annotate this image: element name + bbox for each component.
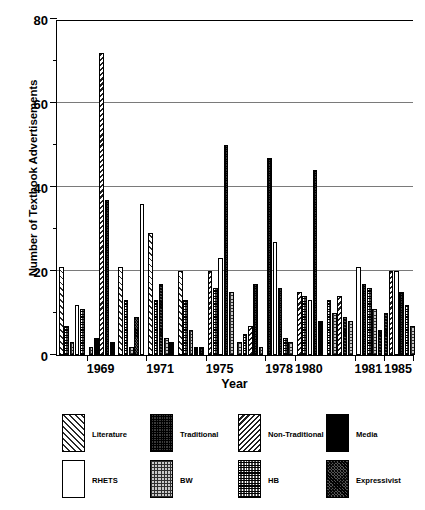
x-tick (265, 355, 266, 361)
bar (189, 330, 194, 355)
legend-row-2: RHETSBWHBExpressivist (62, 460, 414, 500)
x-tick (413, 355, 414, 361)
legend-label: Expressivist (356, 476, 401, 485)
bar (105, 200, 110, 355)
bar (129, 347, 134, 355)
bar (399, 292, 404, 355)
x-tick-label-1980: 1980 (295, 362, 323, 376)
bar (288, 342, 293, 355)
bar (273, 242, 278, 355)
bar (59, 267, 64, 355)
x-tick (206, 355, 207, 361)
bar (362, 284, 367, 355)
y-tick-0 (50, 354, 57, 355)
bar (218, 258, 223, 355)
bar (405, 305, 410, 355)
bar (80, 309, 85, 355)
bar (343, 317, 348, 355)
bar (183, 300, 188, 355)
x-tick (355, 355, 356, 361)
bar (283, 338, 288, 355)
bar (224, 145, 229, 355)
y-tick-label-40: 40 (0, 182, 48, 195)
bar (124, 300, 129, 355)
bar (337, 296, 342, 355)
y-tick-50 (53, 144, 57, 145)
bar (64, 326, 69, 355)
bar (134, 317, 139, 355)
bar (394, 271, 399, 355)
legend-label: Non-Traditional (268, 430, 324, 439)
gridline-40 (57, 186, 413, 187)
legend-row-1: LiteratureTraditionalNon-TraditionalMedi… (62, 414, 414, 454)
y-tick-10 (53, 312, 57, 313)
x-tick-label-1981: 1981 (354, 362, 382, 376)
bar (110, 342, 115, 355)
bar (208, 271, 213, 355)
bar (159, 284, 164, 355)
bar (148, 233, 153, 355)
bar (194, 347, 199, 355)
y-tick-20 (50, 270, 57, 271)
bar (140, 204, 145, 355)
legend-swatch (238, 460, 261, 498)
bar (384, 313, 389, 355)
legend: LiteratureTraditionalNon-TraditionalMedi… (62, 414, 414, 500)
chart-root: Number of Textbook Advertisements 020406… (0, 0, 425, 510)
legend-swatch (62, 460, 85, 498)
x-tick-label-1969: 1969 (87, 362, 115, 376)
bar (94, 338, 99, 355)
legend-label: BW (180, 476, 193, 485)
bar (318, 321, 323, 355)
bar (389, 271, 394, 355)
x-tick (295, 355, 296, 361)
bar (178, 271, 183, 355)
bar (118, 267, 123, 355)
bar (267, 158, 272, 355)
bar (372, 309, 377, 355)
bar (253, 284, 258, 355)
x-tick-label-1971: 1971 (146, 362, 174, 376)
legend-swatch (238, 414, 261, 452)
y-tick-30 (53, 228, 57, 229)
x-tick-label-1978: 1978 (265, 362, 293, 376)
gridline-60 (57, 102, 413, 103)
y-tick-70 (53, 60, 57, 61)
legend-swatch (150, 414, 173, 452)
bar (378, 330, 383, 355)
bar (259, 347, 264, 355)
bar (237, 342, 242, 355)
bar (278, 288, 283, 355)
legend-swatch (62, 414, 85, 452)
bar (356, 267, 361, 355)
x-tick-label-1975: 1975 (206, 362, 234, 376)
bar (248, 326, 253, 355)
x-axis-title: Year (56, 377, 413, 391)
legend-label: Media (356, 430, 378, 439)
bar (302, 296, 307, 355)
bar (199, 347, 204, 355)
bar (410, 326, 415, 355)
y-tick-label-60: 60 (0, 98, 48, 111)
y-tick-60 (50, 102, 57, 103)
bar (70, 342, 75, 355)
y-tick-40 (50, 186, 57, 187)
legend-label: RHETS (92, 476, 118, 485)
plot-area (56, 20, 413, 356)
bar (89, 347, 94, 355)
bar (164, 338, 169, 355)
x-tick (146, 355, 147, 361)
legend-swatch (150, 460, 173, 498)
y-tick-label-0: 0 (0, 350, 48, 363)
bar (169, 342, 174, 355)
legend-label: HB (268, 476, 279, 485)
bar (99, 53, 104, 355)
x-tick-label-1985: 1985 (384, 362, 412, 376)
bar (367, 288, 372, 355)
x-tick (384, 355, 385, 361)
bar (154, 300, 159, 355)
legend-swatch (326, 460, 349, 498)
bar (297, 292, 302, 355)
bar (213, 288, 218, 355)
bar (348, 321, 353, 355)
